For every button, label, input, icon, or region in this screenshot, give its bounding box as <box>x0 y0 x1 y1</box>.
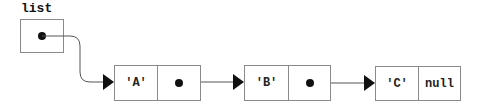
null-pointer: null <box>419 67 460 100</box>
node-b: 'B' <box>244 65 331 101</box>
node-value: 'B' <box>245 66 289 100</box>
pointer-dot-icon <box>289 66 330 100</box>
pointer-dot-icon <box>158 66 200 100</box>
arrowhead-icon <box>364 75 375 91</box>
head-arrow <box>42 36 104 82</box>
node-value: 'C' <box>376 67 419 100</box>
node-value: 'A' <box>115 66 158 100</box>
arrowhead-icon <box>233 74 244 90</box>
node-c: 'C' null <box>375 66 461 101</box>
node-a: 'A' <box>114 65 201 101</box>
arrowhead-icon <box>103 74 114 90</box>
